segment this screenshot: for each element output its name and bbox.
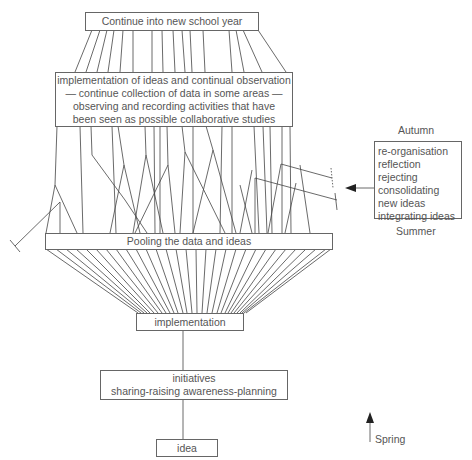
observation-line-4: been seen as possible collaborative stud… [56, 113, 292, 126]
observation-line-1: implementation of ideas and continual ob… [56, 74, 292, 87]
initiatives-line-1: initiatives [101, 372, 287, 385]
observation-box: implementation of ideas and continual ob… [55, 72, 293, 127]
list-item: rejecting [378, 171, 458, 184]
spring-label: Spring [375, 433, 405, 445]
initiatives-box: initiatives sharing-raising awareness-pl… [100, 370, 288, 400]
reflection-list-box: re-organisation reflection rejecting con… [374, 141, 462, 219]
autumn-label: Autumn [398, 124, 434, 136]
continue-new-school-year-box: Continue into new school year [85, 12, 259, 31]
idea-box: idea [156, 439, 218, 457]
pooling-label: Pooling the data and ideas [127, 235, 251, 247]
list-item: reflection [378, 158, 458, 171]
summer-label: Summer [396, 225, 436, 237]
list-item: re-organisation [378, 145, 458, 158]
continue-new-school-year-label: Continue into new school year [102, 15, 243, 27]
idea-label: idea [177, 442, 197, 454]
initiatives-line-2: sharing-raising awareness-planning [101, 385, 287, 398]
arrow-up-head [366, 412, 374, 423]
pooling-box: Pooling the data and ideas [45, 233, 333, 250]
observation-line-2: — continue collection of data in some ar… [56, 87, 292, 100]
list-item: consolidating [378, 184, 458, 197]
implementation-label: implementation [154, 316, 225, 328]
arrow-left-head [345, 184, 356, 192]
list-item: new ideas [378, 197, 458, 210]
observation-line-3: observing and recording activities that … [56, 100, 292, 113]
list-item: integrating ideas [378, 210, 458, 223]
implementation-box: implementation [136, 313, 244, 331]
